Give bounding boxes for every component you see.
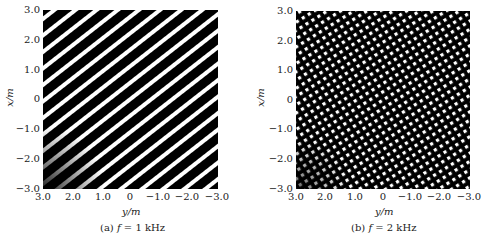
x-tick: 2.0: [310, 192, 340, 202]
x-axis-label: y/m: [122, 206, 141, 217]
caption-prefix: (b): [351, 222, 368, 233]
y-axis-label: x/m: [4, 88, 15, 107]
x-axis-label: y/m: [375, 206, 394, 217]
y-tick: −1.0: [12, 124, 40, 134]
x-tick: 0: [115, 192, 145, 202]
checker-pattern-b: [296, 11, 470, 189]
x-tick: −3.0: [202, 192, 232, 202]
y-tick: −2.0: [12, 154, 40, 164]
panel-b: 3.0 2.0 1.0 0 −1.0 −2.0 −3.0 x/m 3.0 2.0…: [243, 0, 486, 239]
x-tick: 1.0: [340, 192, 370, 202]
caption-prefix: (a): [100, 222, 117, 233]
caption-suffix: = 1 kHz: [121, 222, 165, 233]
x-tick: −2.0: [172, 192, 202, 202]
heatmap-a: [43, 10, 218, 189]
y-tick: 2.0: [265, 36, 293, 46]
x-tick: 0: [368, 192, 398, 202]
y-tick: 1.0: [265, 65, 293, 75]
panel-a: 3.0 2.0 1.0 0 −1.0 −2.0 −3.0 x/m 3.0 2.0…: [0, 0, 243, 239]
caption-suffix: = 2 kHz: [372, 222, 416, 233]
x-tick: 3.0: [281, 192, 311, 202]
stripe-pattern-a: [43, 10, 218, 189]
y-tick: −2.0: [265, 154, 293, 164]
y-tick: 0: [265, 95, 293, 105]
x-tick: −2.0: [424, 192, 454, 202]
y-tick: 2.0: [12, 35, 40, 45]
y-tick: 0: [12, 94, 40, 104]
x-tick: 2.0: [58, 192, 88, 202]
y-tick: −1.0: [265, 124, 293, 134]
x-tick: −1.0: [395, 192, 425, 202]
y-axis-label: x/m: [255, 88, 266, 107]
x-tick: −3.0: [454, 192, 484, 202]
y-tick: 3.0: [265, 6, 293, 16]
y-tick: 3.0: [12, 5, 40, 15]
x-tick: 1.0: [88, 192, 118, 202]
heatmap-b: [296, 11, 470, 189]
caption-b: (b) f = 2 kHz: [351, 222, 416, 233]
x-tick: −1.0: [143, 192, 173, 202]
x-tick: 3.0: [28, 192, 58, 202]
caption-a: (a) f = 1 kHz: [100, 222, 165, 233]
y-tick: 1.0: [12, 65, 40, 75]
